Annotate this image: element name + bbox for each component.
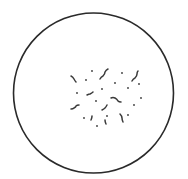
dot-particle [83, 117, 85, 119]
dot-particle [140, 97, 142, 99]
dot-particle [133, 104, 135, 106]
rod-particle [71, 105, 79, 109]
rod-particle [111, 98, 121, 103]
dot-particle [106, 115, 108, 117]
dot-particle [127, 114, 129, 116]
rod-particle [91, 116, 92, 120]
dot-particle [121, 72, 123, 74]
rod-particle [102, 105, 107, 110]
dot-particle [138, 83, 140, 85]
rod-particle [100, 69, 108, 79]
rod-particle [132, 71, 138, 81]
rod-particle [87, 92, 93, 95]
dot-particle [76, 92, 78, 94]
rod-particle [105, 120, 106, 124]
dot-particle [95, 100, 97, 102]
dot-particle [101, 88, 103, 90]
dot-particle [85, 79, 87, 81]
dot-particle-group [76, 70, 142, 127]
dot-particle [114, 82, 116, 84]
rod-particle [120, 114, 123, 122]
dot-particle [127, 87, 129, 89]
rod-particle [71, 76, 76, 82]
diagram-canvas [0, 0, 188, 179]
field-of-view-diagram [0, 0, 188, 179]
field-of-view-circle [14, 13, 174, 173]
dot-particle [96, 125, 98, 127]
dot-particle [91, 70, 93, 72]
